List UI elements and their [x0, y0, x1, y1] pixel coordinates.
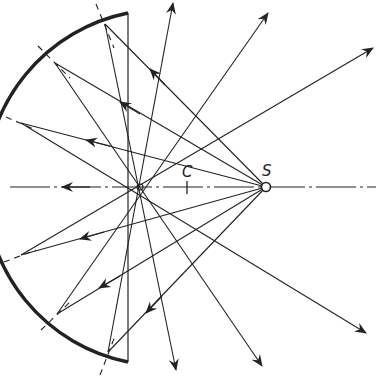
source-point: [262, 183, 271, 192]
optics-ray-diagram: C S: [0, 0, 376, 390]
incident-rays: [21, 24, 266, 352]
center-label: C: [182, 163, 193, 181]
normals: [4, 4, 115, 375]
source-label: S: [262, 162, 272, 180]
